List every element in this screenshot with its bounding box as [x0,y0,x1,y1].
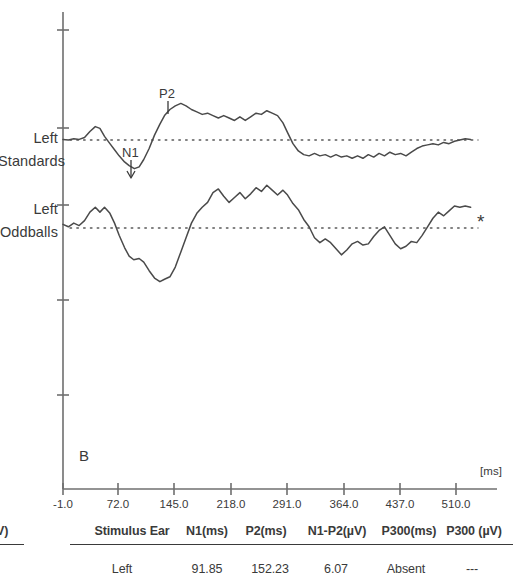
table-header-p300-uv: P300 (µV) [446,524,502,538]
table-row: Left 91.85 152.23 6.07 Absent --- [0,562,513,586]
table-header-stimulus-ear: Stimulus Ear [94,524,169,538]
trace-label-oddballs-line2: Oddballs [0,224,58,240]
table-cell-p300-ms: Absent [387,562,425,576]
trace-label-oddballs-line1: Left [2,201,58,217]
table-cell-p2-ms: 152.23 [251,562,289,576]
x-tick-label-7: 510.0 [442,498,471,510]
x-tick-label-5: 364.0 [330,498,359,510]
x-tick-label-1: 72.0 [107,498,129,510]
trace-left-oddballs [63,185,471,281]
table-header-n1-p2-uv: N1-P2(µV) [308,524,366,538]
table-header-p2-ms: P2(ms) [245,524,286,538]
erp-figure: Left Standards Left Oddballs N1 P2 * B [… [0,0,513,586]
panel-letter: B [79,447,89,464]
table-cell-p300-uv: --- [466,562,478,576]
trace-label-standards-line2: Standards [0,153,58,169]
x-tick-label-2: 145.0 [160,498,189,510]
x-tick-label-6: 437.0 [386,498,415,510]
table-cell-n1-ms: 91.85 [192,562,223,576]
x-tick-label-0: -1.0 [53,498,73,510]
table-header-rule [70,544,513,545]
table-header-n1-ms: N1(ms) [186,524,228,538]
significance-star: * [477,212,484,231]
trace-label-standards-line1: Left [2,130,58,146]
peak-label-n1: N1 [122,145,139,160]
table-header-p300-ms: P300(ms) [382,524,437,538]
results-table: V) Stimulus Ear N1(ms) P2(ms) N1-P2(µV) … [0,516,513,586]
table-cell-n1-p2-uv: 6.07 [324,562,348,576]
peak-label-p2: P2 [159,86,175,101]
waveform-plot [0,0,513,586]
x-axis-unit-label: [ms] [480,465,502,477]
x-tick-label-4: 291.0 [273,498,302,510]
table-cell-stimulus-ear: Left [112,562,132,576]
x-tick-label-3: 218.0 [217,498,246,510]
